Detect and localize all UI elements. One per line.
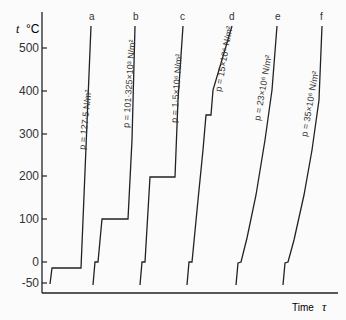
curve-letter-e: e [275,11,281,22]
pressure-label-a: p = 127·5 N/m² [77,89,93,150]
y-axis-label-t: t [16,22,20,36]
curve-letter-b: b [133,11,139,22]
ytick-200: 200 [19,169,39,183]
ytick-100: 100 [19,212,39,226]
pressure-label-f: p = 35×10⁶ N/m² [299,70,320,137]
x-axis-symbol-tau: τ [322,300,327,314]
pressure-label-b: p = 101·325×10³ N/m² [121,39,137,128]
ytick-0: 0 [32,255,39,269]
y-tick-labels: 500 400 300 200 100 0 -50 [19,41,39,290]
curve-f [283,26,322,285]
x-axis-label: Time [292,302,314,313]
ytick-500: 500 [19,41,39,55]
curve-letter-f: f [320,11,323,22]
pressure-label-c: p = 1·5×10⁶ N/m² [169,53,184,123]
pressure-label-e: p = 23×10⁶ N/m² [252,54,273,121]
pressure-label-d: p = 15×10⁶ N/m² [213,25,234,92]
ytick-300: 300 [19,127,39,141]
ytick-neg50: -50 [22,276,40,290]
curve-letter-d: d [229,11,235,22]
phase-change-chart: 500 400 300 200 100 0 -50 t °C Time τ a … [0,0,346,320]
curve-a [50,26,91,284]
ytick-400: 400 [19,84,39,98]
y-ticks [42,48,47,283]
curve-letter-c: c [180,11,185,22]
curve-letter-a: a [89,11,95,22]
y-axis-label-unit: °C [26,22,40,36]
